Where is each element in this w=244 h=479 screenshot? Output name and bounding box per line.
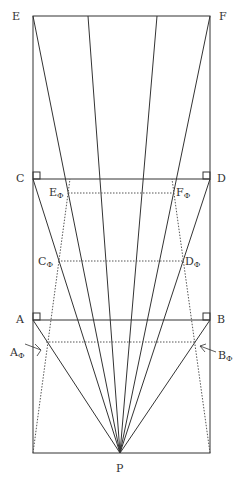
label-B: B <box>217 314 225 325</box>
arrow-B-phi <box>200 344 216 352</box>
dotted-lines <box>33 179 210 453</box>
label-B-phi: BΦ <box>218 350 233 363</box>
label-F: F <box>219 11 227 22</box>
label-C-phi: CΦ <box>38 256 53 269</box>
label-D: D <box>217 173 226 184</box>
label-F-phi: FΦ <box>176 187 190 200</box>
right-angle-C <box>33 172 40 179</box>
right-angle-A <box>33 313 40 320</box>
label-A: A <box>16 314 24 325</box>
label-E-phi: EΦ <box>49 187 64 200</box>
label-C: C <box>16 173 24 184</box>
right-angle-B <box>203 313 210 320</box>
label-D-phi: DΦ <box>185 256 200 269</box>
label-A-phi: AΦ <box>10 347 25 360</box>
outer-rectangle <box>33 16 210 453</box>
label-E: E <box>12 11 20 22</box>
perspective-diagram <box>0 0 244 479</box>
fan-lines <box>33 16 210 453</box>
label-P: P <box>116 463 123 474</box>
right-angle-D <box>203 172 210 179</box>
